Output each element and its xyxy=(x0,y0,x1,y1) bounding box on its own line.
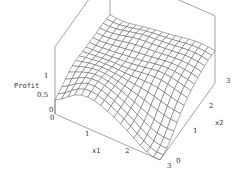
y-tick-0: 0 xyxy=(176,158,180,165)
z-tick-0: 0 xyxy=(49,107,53,114)
z-axis-label: Profit xyxy=(14,83,39,90)
x-tick-0: 0 xyxy=(50,115,54,122)
x-tick-1: 1 xyxy=(85,131,89,138)
surface-mesh xyxy=(55,15,215,160)
y-tick-1: 1 xyxy=(193,128,197,135)
z-tick-1: 1 xyxy=(44,73,48,80)
x-tick-3: 3 xyxy=(167,163,171,170)
x-axis-label: x1 xyxy=(92,148,100,155)
z-tick-0.5: 0.5 xyxy=(37,92,48,99)
y-tick-2: 2 xyxy=(209,103,213,110)
x-tick-2: 2 xyxy=(125,148,129,155)
y-axis-label: x2 xyxy=(215,120,223,127)
y-tick-3: 3 xyxy=(226,78,230,85)
